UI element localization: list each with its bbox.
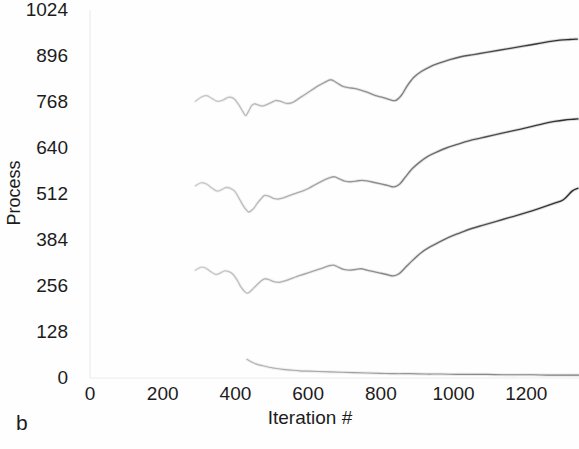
line-chart-svg	[0, 0, 579, 449]
series-halo-trace-2-middle	[195, 119, 577, 212]
series-halo-trace-4-baseline	[247, 359, 579, 375]
plot-area	[0, 0, 579, 449]
series-line-trace-2-middle	[195, 119, 577, 212]
series-line-trace-3-lower	[195, 188, 577, 293]
figure-panel-b: 01282563845126407688961024 0200400600800…	[0, 0, 579, 449]
series-line-trace-1-upper	[195, 39, 577, 116]
series-halo-trace-3-lower	[195, 188, 577, 293]
